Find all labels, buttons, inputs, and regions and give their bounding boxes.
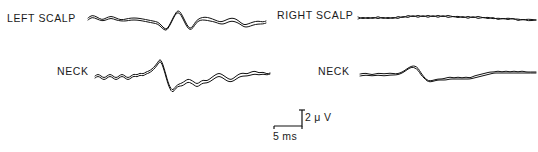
waveform-neck-left bbox=[95, 56, 270, 98]
waveform-left-scalp bbox=[88, 4, 266, 36]
trace-label-right-scalp: RIGHT SCALP bbox=[277, 10, 353, 21]
figure-root: LEFT SCALP RIGHT SCALP NECK NECK 2 μ V 5… bbox=[0, 0, 538, 152]
trace-path-trial-2 bbox=[95, 62, 270, 92]
scalebar-time-label: 5 ms bbox=[273, 131, 297, 142]
scalebar-corner-path bbox=[274, 110, 302, 126]
waveform-right-scalp bbox=[358, 6, 536, 30]
scalebar-amplitude-label: 2 μ V bbox=[305, 112, 331, 123]
waveform-neck-right bbox=[360, 60, 536, 88]
trace-label-left-scalp: LEFT SCALP bbox=[7, 13, 76, 24]
trace-label-neck-right: NECK bbox=[318, 66, 350, 77]
trace-path-trial-2 bbox=[360, 67, 536, 81]
trace-label-neck-left: NECK bbox=[57, 66, 89, 77]
calibration-scalebar: 2 μ V 5 ms bbox=[270, 106, 390, 150]
